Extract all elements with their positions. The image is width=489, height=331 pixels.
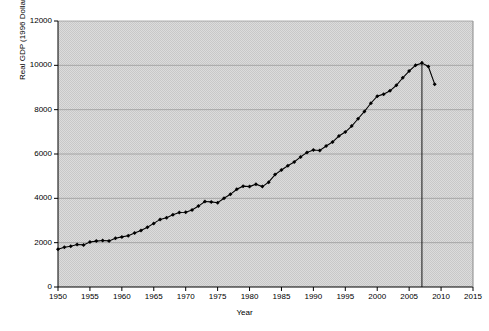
x-axis-tick-labels: 1950195519601965197019751980198519901995… bbox=[0, 0, 489, 331]
gdp-line-chart: Real GDP (1996 Dollars) Year 02000400060… bbox=[0, 0, 489, 331]
x-tick-label: 2015 bbox=[453, 292, 489, 301]
